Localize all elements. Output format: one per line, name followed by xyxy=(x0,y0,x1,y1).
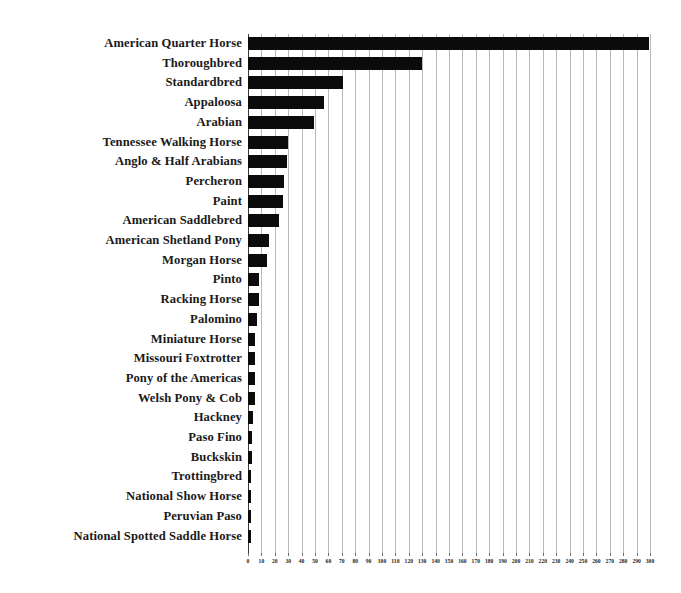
x-tick-mark xyxy=(422,553,423,556)
x-tick-mark xyxy=(436,553,437,556)
bar xyxy=(248,234,269,247)
x-tick-mark xyxy=(315,553,316,556)
category-label: Buckskin xyxy=(0,450,242,464)
x-tick-mark xyxy=(302,553,303,556)
bar-row xyxy=(248,349,650,369)
x-tick-label: 80 xyxy=(352,558,358,565)
category-label: American Saddlebred xyxy=(0,213,242,227)
bar xyxy=(248,313,257,326)
category-label: Welsh Pony & Cob xyxy=(0,391,242,405)
bar-row xyxy=(248,172,650,192)
bar-row xyxy=(248,369,650,389)
bar-row xyxy=(248,448,650,468)
x-tick-label: 130 xyxy=(418,558,426,565)
x-tick-label: 20 xyxy=(272,558,278,565)
bar xyxy=(248,431,252,444)
category-label: Percheron xyxy=(0,174,242,188)
x-tick-mark xyxy=(409,553,410,556)
bar-row xyxy=(248,408,650,428)
x-tick-label: 270 xyxy=(606,558,614,565)
bar xyxy=(248,273,259,286)
bar-row xyxy=(248,73,650,93)
category-axis-labels: American Quarter HorseThoroughbredStanda… xyxy=(0,34,242,553)
x-tick-mark xyxy=(543,553,544,556)
x-tick-mark xyxy=(275,553,276,556)
x-tick-mark xyxy=(355,553,356,556)
bar-row xyxy=(248,231,650,251)
x-tick-label: 90 xyxy=(366,558,372,565)
x-tick-mark xyxy=(650,553,651,556)
bar-row xyxy=(248,93,650,113)
x-tick-mark xyxy=(596,553,597,556)
x-tick-mark xyxy=(395,553,396,556)
bar xyxy=(248,175,284,188)
bars-layer xyxy=(248,34,650,553)
bar xyxy=(248,57,422,70)
bar-row xyxy=(248,467,650,487)
x-tick-label: 260 xyxy=(592,558,600,565)
bar-row xyxy=(248,192,650,212)
bar xyxy=(248,470,251,483)
category-label: Missouri Foxtrotter xyxy=(0,351,242,365)
x-tick-label: 0 xyxy=(247,558,250,565)
x-tick-mark xyxy=(556,553,557,556)
bar xyxy=(248,530,251,543)
bar xyxy=(248,352,255,365)
bar xyxy=(248,136,288,149)
bar-row xyxy=(248,251,650,271)
bar-row xyxy=(248,290,650,310)
bar-row xyxy=(248,428,650,448)
x-tick-mark xyxy=(261,553,262,556)
category-label: Racking Horse xyxy=(0,292,242,306)
gridline-300 xyxy=(650,34,651,553)
x-tick-label: 140 xyxy=(431,558,439,565)
bar xyxy=(248,293,259,306)
bar-row xyxy=(248,152,650,172)
x-tick-label: 110 xyxy=(391,558,399,565)
category-label: Paso Fino xyxy=(0,430,242,444)
category-label: Arabian xyxy=(0,115,242,129)
x-tick-label: 230 xyxy=(552,558,560,565)
category-label: Tennessee Walking Horse xyxy=(0,135,242,149)
category-label: Miniature Horse xyxy=(0,332,242,346)
x-tick-label: 50 xyxy=(312,558,318,565)
bar xyxy=(248,96,324,109)
category-label: American Shetland Pony xyxy=(0,233,242,247)
category-label: Thoroughbred xyxy=(0,56,242,70)
plot-area xyxy=(248,34,650,553)
bar xyxy=(248,372,255,385)
bar-row xyxy=(248,34,650,54)
x-tick-label: 40 xyxy=(299,558,305,565)
x-tick-label: 60 xyxy=(326,558,332,565)
bar xyxy=(248,411,253,424)
horizontal-bar-chart: American Quarter HorseThoroughbredStanda… xyxy=(0,0,681,593)
bar xyxy=(248,116,314,129)
bar xyxy=(248,76,343,89)
bar-row xyxy=(248,133,650,153)
bar xyxy=(248,490,251,503)
bar xyxy=(248,392,255,405)
category-label: Standardbred xyxy=(0,75,242,89)
x-tick-mark xyxy=(369,553,370,556)
category-label: Pinto xyxy=(0,272,242,286)
x-tick-label: 190 xyxy=(498,558,506,565)
x-tick-mark xyxy=(570,553,571,556)
x-tick-mark xyxy=(342,553,343,556)
x-tick-label: 30 xyxy=(285,558,291,565)
category-label: Peruvian Paso xyxy=(0,509,242,523)
x-tick-mark xyxy=(462,553,463,556)
x-tick-label: 120 xyxy=(405,558,413,565)
x-axis: 0102030405060708090100110120130140150160… xyxy=(248,553,650,575)
bar-row xyxy=(248,54,650,74)
x-tick-mark xyxy=(382,553,383,556)
x-tick-label: 200 xyxy=(512,558,520,565)
x-tick-mark xyxy=(516,553,517,556)
bar-row xyxy=(248,270,650,290)
x-tick-mark xyxy=(583,553,584,556)
x-tick-label: 150 xyxy=(445,558,453,565)
category-label: Anglo & Half Arabians xyxy=(0,154,242,168)
x-tick-label: 280 xyxy=(619,558,627,565)
x-tick-mark xyxy=(503,553,504,556)
category-label: Pony of the Americas xyxy=(0,371,242,385)
bar xyxy=(248,510,251,523)
